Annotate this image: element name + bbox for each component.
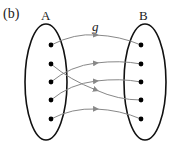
set-a-ellipse bbox=[25, 24, 67, 140]
arrow-a5-b5 bbox=[51, 109, 96, 119]
element-b4 bbox=[139, 98, 144, 103]
element-a5 bbox=[49, 117, 54, 122]
arrow-a4-b3 bbox=[51, 81, 96, 100]
element-a1 bbox=[49, 43, 54, 48]
set-a-elements bbox=[49, 43, 54, 122]
element-b1 bbox=[139, 43, 144, 48]
element-a2 bbox=[49, 62, 54, 67]
element-b3 bbox=[139, 80, 144, 85]
arrow-a1-b1 bbox=[51, 35, 96, 45]
element-a4 bbox=[49, 98, 54, 103]
element-b5 bbox=[139, 117, 144, 122]
diagram-canvas bbox=[0, 0, 172, 141]
element-b2 bbox=[139, 62, 144, 67]
function-mapping-diagram: (b) A B g bbox=[0, 0, 172, 141]
set-b-elements bbox=[139, 43, 144, 122]
element-a3 bbox=[49, 80, 54, 85]
